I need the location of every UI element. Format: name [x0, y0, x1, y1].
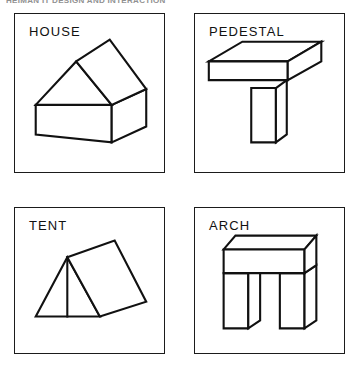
- pedestal-column-side: [276, 80, 287, 142]
- panel-tent[interactable]: TENT: [14, 207, 165, 354]
- panel-label-arch: ARCH: [209, 218, 250, 233]
- house-roof-plane: [76, 40, 146, 105]
- arch-lintel-top: [224, 236, 317, 250]
- pedestal-slab-top: [209, 42, 321, 62]
- panel-label-house: HOUSE: [29, 24, 81, 39]
- arch-right-post-side: [305, 265, 317, 328]
- arch-left-post-front: [224, 273, 249, 328]
- panel-label-tent: TENT: [29, 218, 67, 233]
- panel-label-pedestal: PEDESTAL: [209, 24, 285, 39]
- arch-lintel-side: [305, 236, 317, 273]
- arch-lintel-front: [224, 249, 305, 273]
- panel-arch[interactable]: ARCH: [194, 207, 345, 354]
- panel-house[interactable]: HOUSE: [14, 13, 165, 173]
- shape-panel-grid: HOUSE PEDESTAL: [0, 0, 356, 369]
- pedestal-slab-front: [209, 61, 288, 80]
- house-roof-gable-front: [36, 61, 112, 104]
- pedestal-column-front: [251, 88, 276, 142]
- arch-right-post-front: [280, 273, 305, 328]
- tent-side-panel: [67, 241, 146, 317]
- panel-pedestal[interactable]: PEDESTAL: [194, 13, 345, 173]
- tent-front-triangle: [36, 257, 100, 316]
- house-side-wall: [112, 89, 147, 142]
- pedestal-slab-side: [288, 42, 322, 80]
- arch-left-post-side: [248, 265, 260, 328]
- house-front-wall: [36, 105, 112, 142]
